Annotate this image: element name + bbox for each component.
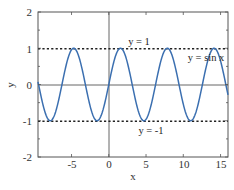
xtick-label: 10 bbox=[179, 158, 191, 170]
y-axis-label: y bbox=[4, 82, 16, 88]
ytick-label: -1 bbox=[23, 115, 32, 127]
ytick-label: 2 bbox=[27, 6, 33, 18]
ytick-label: 0 bbox=[27, 79, 33, 91]
annotation-y-equals-minus1: y = -1 bbox=[138, 125, 163, 136]
sine-chart: 2 1 0 -1 -2 -5 0 5 10 15 x y y = 1 y = s… bbox=[0, 0, 234, 190]
xtick-label: 5 bbox=[143, 158, 149, 170]
ytick-label: 1 bbox=[27, 43, 33, 55]
ytick-label: -2 bbox=[23, 151, 32, 163]
xtick-label: 15 bbox=[216, 158, 228, 170]
annotation-y-equals-1: y = 1 bbox=[128, 36, 150, 47]
xtick-label: -5 bbox=[67, 158, 77, 170]
xtick-label: 0 bbox=[106, 158, 112, 170]
x-axis-label: x bbox=[130, 170, 136, 182]
tick-marks bbox=[38, 12, 228, 157]
plot-frame bbox=[38, 12, 228, 157]
annotation-y-equals-sinx: y = sin x bbox=[188, 52, 225, 63]
